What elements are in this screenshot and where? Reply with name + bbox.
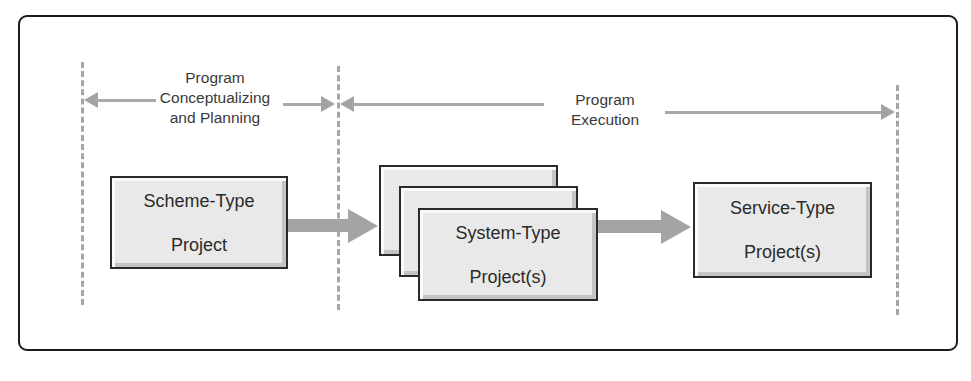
- phase-divider-right: [896, 85, 899, 315]
- planning-span-line-right: [283, 103, 323, 106]
- node-system-type-projects: System-Type Project(s): [418, 208, 598, 301]
- arrowhead-right-icon: [321, 96, 335, 112]
- phase-label-planning: Program Conceptualizing and Planning: [150, 68, 280, 128]
- arrowhead-right-icon: [881, 104, 895, 120]
- edge-system-to-service-arrowhead-icon: [661, 210, 691, 244]
- planning-span-line-left: [96, 99, 156, 102]
- node-system-line2: Project(s): [455, 266, 560, 288]
- phase-label-planning-line3: and Planning: [150, 108, 280, 128]
- node-scheme-line1: Scheme-Type: [143, 190, 254, 212]
- node-service-line2: Project(s): [730, 241, 835, 263]
- execution-span-line-right: [665, 111, 883, 114]
- edge-scheme-to-system-arrowhead-icon: [348, 209, 378, 243]
- phase-label-planning-line1: Program: [150, 68, 280, 88]
- node-system-line1: System-Type: [455, 222, 560, 244]
- node-scheme-type-project: Scheme-Type Project: [110, 176, 288, 269]
- phase-label-planning-line2: Conceptualizing: [150, 88, 280, 108]
- execution-span-line-left: [352, 103, 544, 106]
- edge-scheme-to-system-shaft: [288, 219, 350, 232]
- node-service-type-projects: Service-Type Project(s): [693, 182, 872, 278]
- edge-system-to-service-shaft: [598, 220, 663, 233]
- phase-label-execution-line1: Program: [555, 90, 655, 110]
- node-service-line1: Service-Type: [730, 197, 835, 219]
- node-scheme-line2: Project: [143, 234, 254, 256]
- phase-label-execution-line2: Execution: [555, 110, 655, 130]
- phase-label-execution: Program Execution: [555, 90, 655, 130]
